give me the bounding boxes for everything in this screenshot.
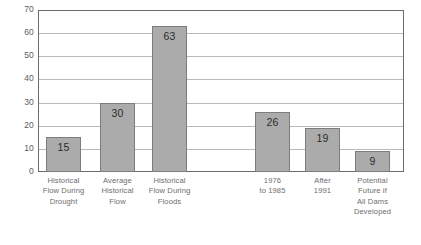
bar-value-label: 63 <box>153 30 186 42</box>
bar-value-label: 26 <box>256 116 289 128</box>
x-axis-label: HistoricalFlow DuringFloods <box>138 176 202 207</box>
y-tick-label-20: 20 <box>4 121 34 130</box>
bar-value-label: 15 <box>47 141 80 153</box>
bar: 26 <box>255 112 290 172</box>
bar: 15 <box>46 137 81 172</box>
y-tick-label-10: 10 <box>4 144 34 153</box>
bar: 63 <box>152 26 187 172</box>
x-axis-category-labels: HistoricalFlow DuringDroughtAverageHisto… <box>38 176 404 244</box>
bar-chart: 010203040506070 15306326199 HistoricalFl… <box>0 0 421 245</box>
y-tick-label-40: 40 <box>4 74 34 83</box>
y-tick-label-70: 70 <box>4 5 34 14</box>
bars-layer: 15306326199 <box>38 10 404 172</box>
bar-value-label: 30 <box>101 107 134 119</box>
y-tick-label-30: 30 <box>4 98 34 107</box>
bar: 19 <box>305 128 340 172</box>
y-tick-label-50: 50 <box>4 51 34 60</box>
y-tick-label-60: 60 <box>4 28 34 37</box>
x-axis-label: PotentialFuture ifAll DamsDeveloped <box>341 176 405 218</box>
y-axis: 010203040506070 <box>0 0 34 245</box>
bar: 9 <box>355 151 390 172</box>
bar-value-label: 9 <box>356 155 389 167</box>
y-tick-label-0: 0 <box>4 167 34 176</box>
bar: 30 <box>100 103 135 172</box>
bar-value-label: 19 <box>306 132 339 144</box>
